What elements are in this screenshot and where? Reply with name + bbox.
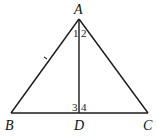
tick-mark-ab xyxy=(44,57,47,59)
triangle-diagram: A B D C 1 2 3 4 xyxy=(0,0,158,137)
point-label-a: A xyxy=(73,2,83,17)
point-label-c: C xyxy=(143,118,153,133)
angle-label-2: 2 xyxy=(81,27,87,39)
segment-ac xyxy=(79,19,148,113)
angle-label-1: 1 xyxy=(73,27,79,39)
point-label-d: D xyxy=(73,118,84,133)
point-label-b: B xyxy=(5,118,14,133)
segment-ab xyxy=(11,19,79,113)
angle-label-4: 4 xyxy=(81,101,87,113)
angle-label-3: 3 xyxy=(72,101,78,113)
